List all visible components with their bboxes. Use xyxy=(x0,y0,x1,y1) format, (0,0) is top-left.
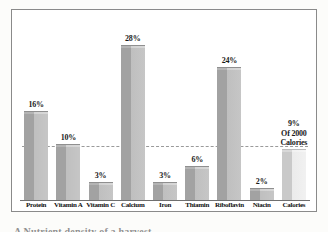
bar-wrapper: 9% Of 2000 Calories xyxy=(281,120,307,201)
category-label-niacin: Niacin xyxy=(247,201,277,210)
bar-wrapper: 6% xyxy=(184,156,210,201)
bar-wrapper: 3% xyxy=(152,172,178,201)
category-label-calcium: Calcium xyxy=(118,201,148,210)
bar-calories xyxy=(282,149,306,200)
figure-caption: A Nutrient density of a harvest xyxy=(14,226,314,232)
category-labels: Protein Vitamin A Vitamin C Calcium Iron… xyxy=(20,201,310,212)
category-label-vitamin-a: Vitamin A xyxy=(53,201,83,210)
bar-riboflavin xyxy=(217,67,241,200)
bar-value-label: 9% xyxy=(288,120,300,129)
bar-wrapper: 10% xyxy=(55,134,81,201)
bar-series: 16% 10% 3% 28% 3% xyxy=(20,14,310,200)
category-label-thiamin: Thiamin xyxy=(182,201,212,210)
bar-column-riboflavin: 24% xyxy=(216,14,242,200)
bar-wrapper: 3% xyxy=(88,172,114,201)
bar-wrapper: 16% xyxy=(23,101,49,201)
category-label-riboflavin: Riboflavin xyxy=(214,201,244,210)
bar-column-vitamin-c: 3% xyxy=(88,14,114,200)
bar-value-label: 3% xyxy=(159,172,171,181)
bar-column-calories: 9% Of 2000 Calories xyxy=(281,14,307,200)
bar-value-label: 24% xyxy=(222,57,237,66)
bar-wrapper: 2% xyxy=(249,178,275,201)
bar-value-label: 16% xyxy=(28,101,43,110)
category-label-iron: Iron xyxy=(150,201,180,210)
bar-protein xyxy=(24,111,48,200)
bar-column-thiamin: 6% xyxy=(184,14,210,200)
bar-column-vitamin-a: 10% xyxy=(55,14,81,200)
bar-calcium xyxy=(121,45,145,200)
bar-thiamin xyxy=(185,166,209,200)
bar-column-calcium: 28% xyxy=(120,14,146,200)
bar-vitamin-c xyxy=(89,182,113,200)
category-label-calories: Calories xyxy=(279,201,309,210)
bar-column-protein: 16% xyxy=(23,14,49,200)
bar-niacin xyxy=(250,188,274,200)
bar-value-label: 6% xyxy=(191,156,203,165)
bar-column-iron: 3% xyxy=(152,14,178,200)
bar-value-label: 3% xyxy=(95,172,107,181)
category-label-vitamin-c: Vitamin C xyxy=(86,201,116,210)
bar-vitamin-a xyxy=(56,144,80,200)
bar-column-niacin: 2% xyxy=(249,14,275,200)
bar-iron xyxy=(153,182,177,200)
category-label-protein: Protein xyxy=(21,201,51,210)
bar-value-label: 2% xyxy=(256,178,268,187)
bar-wrapper: 28% xyxy=(120,35,146,201)
bar-wrapper: 24% xyxy=(216,57,242,201)
chart-page: 16% 10% 3% 28% 3% xyxy=(0,0,328,232)
bar-value-label: 10% xyxy=(61,134,76,143)
bar-value-sublabel-line3: Calories xyxy=(280,139,307,148)
bar-value-label: 28% xyxy=(125,35,140,44)
